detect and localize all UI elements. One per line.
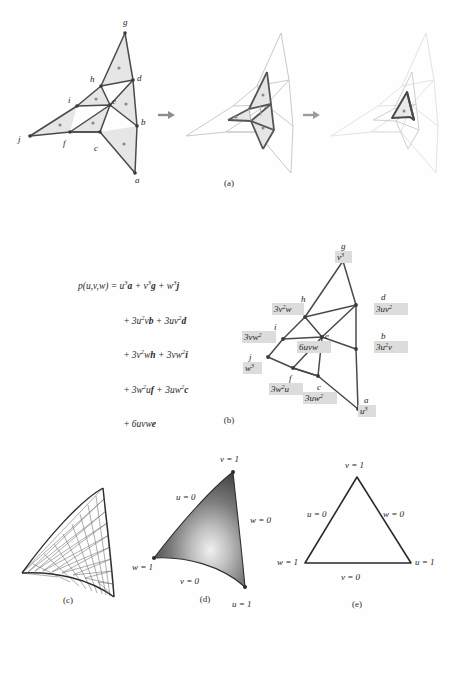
vertex-label-f: f: [63, 138, 67, 148]
equation-line-5: + 6uvwe: [78, 419, 188, 431]
ctrlpoint-letter-a: a: [364, 395, 369, 405]
ctrlpoint-letter-c: c: [317, 382, 321, 392]
bezier-polynomial-equation: p(u,v,w) = u3a + v3g + w3j + 3u2vb + 3uv…: [78, 258, 188, 454]
domain-triangle: [305, 477, 411, 563]
ctrlpoint-letter-i: i: [274, 322, 277, 332]
weight-box-a: u3: [358, 405, 376, 417]
ctrlpoint-letter-j: j: [248, 352, 252, 362]
vertex-label-b: b: [141, 117, 146, 127]
weight-box-c: 3uw2: [303, 392, 337, 404]
shaded-surface: [154, 472, 245, 587]
arrow-icon-1: [158, 111, 175, 119]
panel-e-domain-triangle: v = 1 u = 0 w = 0 w = 1 v = 0 u = 1 (e): [285, 455, 455, 615]
edge-label-u-eq-1: u = 1: [415, 557, 435, 567]
svg-text:3u2v: 3u2v: [375, 342, 392, 352]
ctrlpoint-letter-e: e: [325, 331, 329, 341]
svg-text:3v2w: 3v2w: [273, 304, 292, 314]
mesh-step-2: [186, 33, 293, 173]
wireframe-mesh: [22, 488, 114, 597]
equation-line-1: p(u,v,w) = u3a + v3g + w3j: [78, 281, 188, 293]
weight-box-d: 3uv2: [374, 303, 408, 315]
arrow-icon-2: [303, 111, 320, 119]
ctrlpoint-letter-h: h: [301, 294, 306, 304]
ctrlpoint-letter-d: d: [381, 292, 386, 302]
patch-outline: [22, 488, 114, 597]
panel-a-subdivision: g h d i e b j f c a: [0, 8, 459, 193]
edge-label-u-eq-0: u = 0: [307, 509, 327, 519]
weight-box-f: 3w2u: [269, 383, 303, 395]
edge-label-w-eq-1: w = 1: [132, 562, 153, 572]
weight-box-e: 6uvw: [297, 341, 331, 353]
figure-page: g h d i e b j f c a: [0, 0, 459, 680]
edge-label-w-eq-1: w = 1: [277, 557, 298, 567]
edge-label-u-eq-1: u = 1: [232, 599, 252, 609]
ctrlpoint-letter-f: f: [289, 373, 293, 383]
svg-text:6uvw: 6uvw: [299, 342, 318, 352]
equation-line-4: + 3w2uf + 3uw2c: [78, 385, 188, 397]
panel-c-wireframe: (c): [2, 455, 137, 615]
vertex-label-j: j: [17, 134, 21, 144]
edge-label-v-eq-1: v = 1: [220, 454, 239, 464]
vertex-label-c: c: [94, 143, 98, 153]
caption-b: (b): [209, 415, 249, 425]
equation-line-3: + 3v2wh + 3vw2i: [78, 350, 188, 362]
vertex-label-e: e: [112, 96, 116, 106]
edge-label-v-eq-1: v = 1: [345, 460, 364, 470]
edge-label-v-eq-0: v = 0: [180, 576, 200, 586]
edge-label-v-eq-0: v = 0: [341, 572, 361, 582]
vertex-label-i: i: [68, 95, 71, 105]
weight-box-j: w3: [243, 362, 262, 374]
caption-e: (e): [337, 599, 377, 609]
vertex-label-a: a: [135, 175, 140, 185]
caption-d: (d): [185, 594, 225, 604]
ctrlpoint-letter-g: g: [341, 241, 346, 251]
caption-c: (c): [48, 595, 88, 605]
edge-label-w-eq-0: w = 0: [383, 509, 405, 519]
weight-box-i: 3vw2: [242, 331, 276, 343]
weight-box-h: 3v2w: [272, 303, 304, 315]
vertex-label-h: h: [90, 74, 95, 84]
vertex-label-d: d: [137, 73, 142, 83]
weight-box-b: 3u2v: [374, 341, 408, 353]
svg-text:3w2u: 3w2u: [270, 384, 290, 394]
edge-label-w-eq-0: w = 0: [250, 515, 272, 525]
equation-line-2: + 3u2vb + 3uv2d: [78, 316, 188, 328]
panel-d-shaded-patch: v = 1 u = 0 w = 0 w = 1 v = 0 u = 1 (d): [132, 450, 282, 615]
ctrlpoint-letter-b: b: [381, 331, 386, 341]
edge-label-u-eq-0: u = 0: [176, 492, 196, 502]
panel-b-bezier-net: g h d i e b j f c a v3 3v2w: [0, 235, 459, 420]
weight-box-g: v3: [335, 251, 352, 263]
vertex-label-g: g: [123, 17, 128, 27]
mesh-step-1: g h d i e b j f c a: [17, 17, 146, 185]
mesh-step-3: [331, 33, 438, 173]
caption-a: (a): [209, 178, 249, 188]
